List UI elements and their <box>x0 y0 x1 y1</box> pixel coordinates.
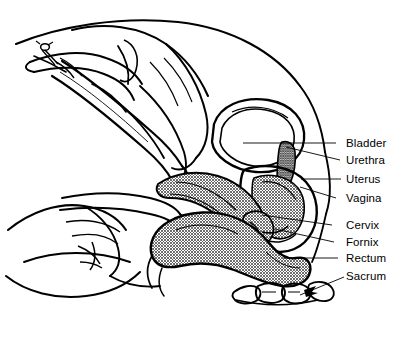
figure-illustration <box>0 0 398 343</box>
label-urethra: Urethra <box>346 154 385 166</box>
label-cervix: Cervix <box>346 219 379 231</box>
figure-background <box>0 0 398 343</box>
label-vagina: Vagina <box>346 192 382 204</box>
label-uterus: Uterus <box>346 173 380 185</box>
label-bladder: Bladder <box>346 137 386 149</box>
label-fornix: Fornix <box>346 236 379 248</box>
anatomical-figure: BladderUrethraUterusVaginaCervixFornixRe… <box>0 0 398 343</box>
label-rectum: Rectum <box>346 252 386 264</box>
label-sacrum: Sacrum <box>346 270 386 282</box>
